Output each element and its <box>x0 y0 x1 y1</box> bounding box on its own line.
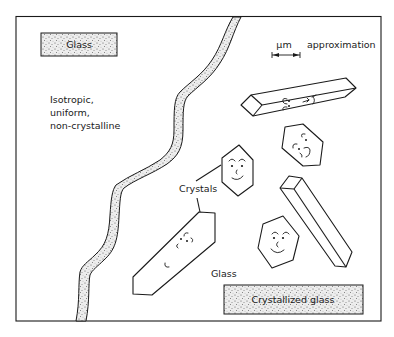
crystal-prism-lower-left <box>133 212 215 295</box>
description-line-3: non-crystalline <box>50 120 120 131</box>
description-line-1: Isotropic, <box>50 94 94 105</box>
crystals-label: Crystals <box>179 183 217 194</box>
crystal-hexagon-center <box>222 145 253 196</box>
figure-frame <box>16 17 381 322</box>
crystals-label-group: Crystals <box>179 165 221 212</box>
scale-bar: μm approximation <box>272 39 376 58</box>
crystallized-glass-label-box: Crystallized glass <box>224 285 363 314</box>
crystal-prism-upper <box>241 78 356 116</box>
description-line-2: uniform, <box>50 107 90 118</box>
glass-description: Isotropic, uniform, non-crystalline <box>50 94 120 131</box>
glass-label: Glass <box>66 39 92 50</box>
crystallized-glass-label: Crystallized glass <box>252 294 335 305</box>
crystal-hexagon-lower <box>258 216 299 268</box>
glass-matrix-label: Glass <box>211 268 237 279</box>
scale-unit: μm <box>276 39 291 50</box>
glass-crystallization-diagram: Glass Isotropic, uniform, non-crystallin… <box>0 0 394 337</box>
glass-label-box: Glass <box>41 33 117 56</box>
crystal-hexagon-right <box>282 124 323 166</box>
scale-caption: approximation <box>307 39 376 50</box>
